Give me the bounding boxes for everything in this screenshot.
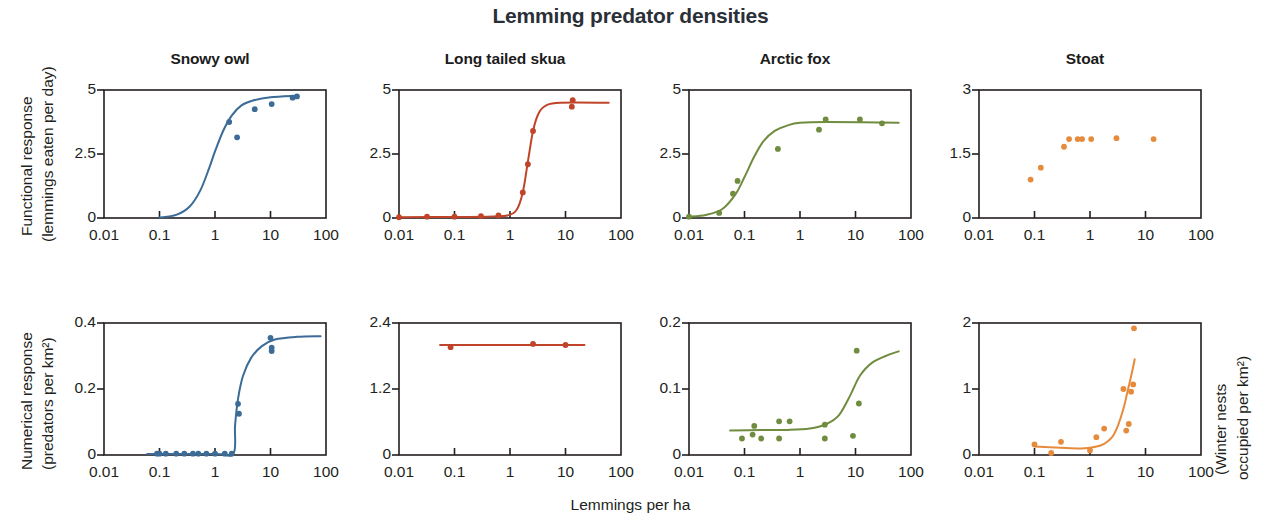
data-point [424,214,430,220]
fitted-curve [730,351,899,430]
data-point [1032,442,1038,448]
data-point [686,214,692,220]
y-tick-label: 0 [14,208,96,226]
fitted-curve [160,96,297,218]
y-tick-label: 3 [889,80,971,98]
data-point [787,418,793,424]
data-point [570,97,576,103]
y-tick-label: 2.4 [309,313,391,331]
y-tick-label: 0.1 [599,379,681,397]
data-point [563,342,569,348]
data-point [1151,136,1157,142]
data-point [716,210,722,216]
data-point [776,418,782,424]
data-point [1123,428,1129,434]
plot-frame [104,90,326,218]
y-tick-label: 0.4 [14,313,96,331]
data-point [1128,389,1134,395]
y-tick-label: 0 [309,208,391,226]
figure-lemming-predator-densities: Lemming predator densities Snowy owl Lon… [0,0,1261,530]
data-point [294,94,300,100]
data-point [229,451,235,457]
panel-title-arctic-fox-functional: Arctic fox [650,50,940,68]
data-point [269,345,275,351]
data-point [236,411,242,417]
data-point [530,341,536,347]
x-axis-label: Lemmings per ha [0,496,1261,514]
y-axis-label-winter-nests-line1: (Winter nests [1212,384,1230,475]
data-point [823,117,829,123]
x-tick-label: 100 [1166,226,1236,244]
data-point [1061,144,1067,150]
y-tick-label: 2 [889,313,971,331]
y-tick-label: 0.2 [599,313,681,331]
data-point [525,161,531,167]
data-point [1114,135,1120,141]
data-point [879,120,885,126]
data-point [269,348,275,354]
data-point [173,451,179,457]
data-point [1088,136,1094,142]
data-point [1028,177,1034,183]
data-point [1131,325,1137,331]
data-point [735,178,741,184]
y-tick-label: 0 [889,445,971,463]
x-tick-label: 100 [291,226,361,244]
y-tick-label: 0 [889,208,971,226]
data-point [269,101,275,107]
data-point [857,117,863,123]
fitted-curve [147,336,320,456]
x-tick-label: 100 [586,226,656,244]
y-tick-label: 5 [309,80,391,98]
data-point [396,214,402,220]
data-point [822,436,828,442]
data-point [739,436,745,442]
data-point [157,451,163,457]
y-tick-label: 0 [309,445,391,463]
data-point [204,451,210,457]
data-point [478,213,484,219]
y-tick-label: 0 [599,445,681,463]
y-axis-label-winter-nests-line2: occupied per km²) [1234,356,1252,480]
data-point [1079,136,1085,142]
x-tick-label: 100 [586,463,656,481]
x-tick-label: 100 [876,226,946,244]
data-point [222,451,228,457]
panel-title-snowy-owl-functional: Snowy owl [60,50,360,68]
data-point [758,436,764,442]
data-point [1066,136,1072,142]
data-point [181,451,187,457]
data-point [212,451,218,457]
data-point [1101,426,1107,432]
data-point [496,213,502,219]
data-point [252,106,258,112]
x-tick-label: 100 [291,463,361,481]
data-point [452,214,458,220]
data-point [776,436,782,442]
data-point [822,422,828,428]
y-tick-label: 1 [889,379,971,397]
y-tick-label: 2.5 [309,144,391,162]
data-point [190,451,196,457]
data-point [1038,165,1044,171]
data-point [195,451,201,457]
data-point [1075,136,1081,142]
data-point [751,423,757,429]
data-point [750,432,756,438]
data-point [530,128,536,134]
data-point [854,348,860,354]
x-tick-label: 100 [1166,463,1236,481]
data-point [234,134,240,140]
y-tick-label: 2.5 [599,144,681,162]
y-tick-label: 2.5 [14,144,96,162]
y-tick-label: 1.5 [889,144,971,162]
figure-title: Lemming predator densities [0,4,1261,28]
panel-title-long-tailed-skua-functional: Long tailed skua [355,50,655,68]
data-point [448,344,454,350]
data-point [226,119,232,125]
data-point [775,146,781,152]
plot-frame [689,323,911,455]
data-point [235,401,241,407]
y-tick-label: 0 [14,445,96,463]
data-point [1126,421,1132,427]
